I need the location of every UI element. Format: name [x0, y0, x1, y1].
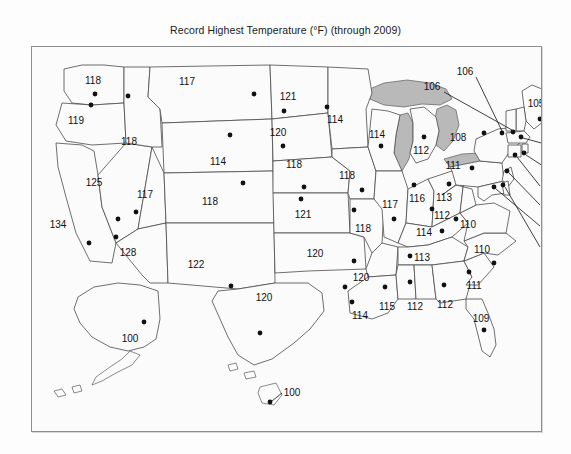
station-dot-wa — [93, 92, 98, 97]
alaska-peninsula — [92, 351, 140, 385]
station-dot-ct — [513, 153, 518, 158]
value-label-mt: 117 — [179, 76, 195, 87]
station-dot-wy — [228, 133, 233, 138]
value-label-ca: 134 — [50, 219, 67, 230]
state-nm — [166, 223, 275, 289]
state-ma — [506, 131, 530, 143]
station-dot-ks — [299, 197, 304, 202]
value-label-nv: 125 — [86, 177, 103, 188]
value-label-vt: 106 — [457, 66, 474, 77]
station-dot-ri — [522, 151, 527, 156]
station-dot-nj — [505, 169, 510, 174]
value-label-oh: 113 — [436, 192, 452, 203]
value-label-wy: 114 — [210, 156, 226, 167]
value-label-fl: 109 — [473, 313, 490, 324]
states-layer — [54, 65, 541, 405]
station-dot-or — [89, 103, 94, 108]
station-dot-id — [126, 94, 131, 99]
value-label-tx: 120 — [256, 292, 273, 303]
station-dot-mt — [252, 92, 257, 97]
value-label-wa: 118 — [85, 75, 101, 86]
station-dot-ca — [87, 241, 92, 246]
value-label-nd: 121 — [280, 91, 297, 102]
value-label-ak: 100 — [122, 333, 139, 344]
station-dot-mo — [352, 208, 357, 213]
value-label-ut: 117 — [137, 189, 153, 200]
station-dot-ar — [352, 259, 357, 264]
value-label-hi: 100 — [284, 387, 301, 398]
value-label-nm: 122 — [188, 259, 205, 270]
state-ak — [74, 283, 160, 351]
value-label-ia: 118 — [339, 170, 355, 181]
state-nh — [516, 107, 526, 131]
value-label-nh: 106 — [424, 81, 441, 92]
station-dot-ny — [482, 131, 487, 136]
value-label-ny: 108 — [450, 132, 467, 143]
map-panel: 1181191181171141251341171181281221201211… — [31, 46, 542, 432]
station-dot-co — [241, 181, 246, 186]
station-dot-ia — [360, 188, 365, 193]
station-dot-ma — [519, 135, 524, 140]
figure-container: Record Highest Temperature (°F) (through… — [0, 0, 571, 454]
station-dot-al — [408, 280, 413, 285]
station-dot-wi — [379, 144, 384, 149]
station-dot-va — [454, 217, 459, 222]
station-dot-md — [492, 185, 497, 190]
value-label-pa: 111 — [445, 160, 461, 171]
station-dot-ms — [383, 285, 388, 290]
value-label-ms: 115 — [379, 301, 395, 312]
value-label-ga: 112 — [437, 299, 453, 310]
value-label-sd: 120 — [270, 127, 287, 138]
value-label-mo: 118 — [355, 223, 371, 234]
value-label-ok: 120 — [307, 248, 324, 259]
aleutian-islands — [54, 385, 82, 397]
station-dot-tx — [258, 331, 263, 336]
state-fl — [466, 299, 496, 357]
state-ks — [273, 193, 350, 233]
state-mn — [328, 67, 372, 149]
page-title: Record Highest Temperature (°F) (through… — [0, 24, 571, 36]
station-dot-nc — [492, 261, 497, 266]
state-co — [164, 171, 274, 223]
value-label-wi: 114 — [369, 129, 385, 140]
station-dot-az — [114, 235, 119, 240]
station-dot-tn — [408, 254, 413, 259]
value-label-al: 112 — [407, 301, 423, 312]
station-dot-ga — [442, 283, 447, 288]
station-dot-nv — [116, 217, 121, 222]
station-dot-nd — [282, 109, 287, 114]
value-label-ky: 114 — [416, 227, 432, 238]
station-dot-de — [501, 183, 506, 188]
value-label-wv: 112 — [434, 210, 450, 221]
value-label-co: 118 — [202, 196, 218, 207]
value-label-or: 119 — [68, 115, 84, 126]
hawaii-islands — [228, 363, 282, 405]
station-dot-pa — [470, 166, 475, 171]
value-label-tn: 113 — [414, 252, 430, 263]
value-label-mn: 114 — [327, 114, 343, 125]
value-label-sc: 111 — [466, 280, 482, 291]
station-dot-nh — [511, 130, 516, 135]
station-dot-mi — [422, 135, 427, 140]
station-dot-hi — [268, 400, 273, 405]
station-dot-fl — [482, 328, 487, 333]
station-dot-nm — [229, 284, 234, 289]
callout-leader-vt — [476, 77, 502, 131]
state-ms — [396, 265, 416, 299]
station-dot-oh — [447, 182, 452, 187]
value-label-in: 116 — [409, 193, 425, 204]
station-dot-in — [412, 183, 417, 188]
station-dot-ok — [343, 285, 348, 290]
station-dot-sd — [281, 144, 286, 149]
station-dot-mn — [325, 105, 330, 110]
callout-leader-ri — [526, 155, 541, 166]
callout-leader-nj — [509, 173, 540, 205]
station-dot-ne — [302, 185, 307, 190]
station-dot-la — [350, 300, 355, 305]
value-label-va: 110 — [460, 219, 476, 230]
state-or — [56, 103, 126, 145]
value-label-la: 114 — [352, 310, 368, 321]
value-label-il: 117 — [382, 199, 398, 210]
station-dot-ak — [142, 320, 147, 325]
station-dot-vt — [500, 131, 505, 136]
